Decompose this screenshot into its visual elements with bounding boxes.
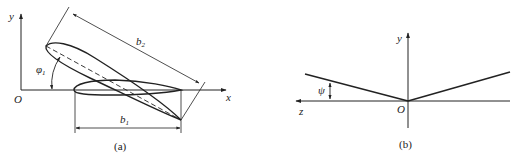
figure-a: b2 b1 φ1 y x O (a) [8,7,231,153]
phi1-label: φ1 [36,63,46,77]
diagram-canvas: b2 b1 φ1 y x O (a) ψ z O y (b) [0,0,513,157]
psi-label: ψ [318,84,325,96]
right-wing-line [408,72,510,101]
caption-b: (b) [399,138,412,151]
horizontal-airfoil [74,80,181,95]
b2-label: b2 [136,35,146,49]
y-axis-label-b: y [396,32,402,44]
x-axis-label-a: x [225,91,231,103]
origin-label-b: O [397,103,405,115]
y-axis-label-a: y [8,10,14,22]
phi1-angle-arc [52,57,60,89]
z-axis-label-b: z [298,105,304,117]
figure-b: ψ z O y (b) [296,32,510,151]
b2-extension-right [181,82,205,120]
b2-extension-left [46,7,69,46]
b1-label: b1 [120,113,129,127]
origin-label-a: O [14,93,22,105]
b2-dimension-line [73,14,199,83]
chord-line-rotated [46,46,181,120]
caption-a: (a) [114,140,127,153]
